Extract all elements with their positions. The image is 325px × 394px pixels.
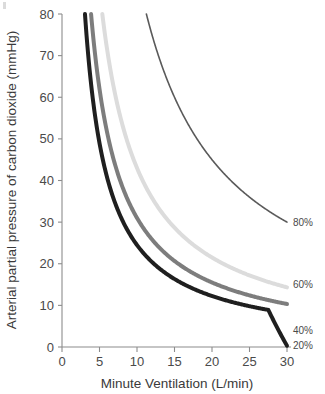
curve-group <box>85 14 287 346</box>
y-tick-label: 0 <box>47 340 54 355</box>
y-tick-label: 20 <box>40 256 54 271</box>
x-tick-label: 5 <box>96 354 103 369</box>
x-axis-tick-group: 051015202530 <box>58 347 294 369</box>
chart-figure: 01020304050607080 051015202530 20%40%60%… <box>0 0 325 394</box>
y-tick-label: 80 <box>40 7 54 22</box>
y-tick-label: 60 <box>40 90 54 105</box>
curve-label-80pct: 80% <box>293 217 313 228</box>
chart-canvas: 01020304050607080 051015202530 20%40%60%… <box>0 0 325 394</box>
curve-label-group: 20%40%60%80% <box>293 217 313 352</box>
x-axis-title: Minute Ventilation (L/min) <box>101 376 253 391</box>
x-tick-label: 30 <box>280 354 294 369</box>
curve-label-40pct: 40% <box>293 325 313 336</box>
y-tick-label: 50 <box>40 131 54 146</box>
x-tick-label: 20 <box>205 354 219 369</box>
curve-label-60pct: 60% <box>293 279 313 290</box>
curve-40pct <box>91 14 287 304</box>
y-tick-label: 30 <box>40 215 54 230</box>
x-tick-label: 15 <box>167 354 181 369</box>
x-tick-label: 0 <box>58 354 65 369</box>
y-axis-title: Arterial partial pressure of carbon diox… <box>4 31 19 330</box>
y-tick-label: 10 <box>40 298 54 313</box>
y-tick-label: 70 <box>40 48 54 63</box>
curve-60pct <box>102 14 287 287</box>
y-tick-label: 40 <box>40 173 54 188</box>
y-axis-tick-group: 01020304050607080 <box>40 7 62 355</box>
curve-80pct <box>146 14 287 222</box>
curve-label-20pct: 20% <box>293 340 313 351</box>
x-tick-label: 25 <box>242 354 256 369</box>
x-tick-label: 10 <box>130 354 144 369</box>
